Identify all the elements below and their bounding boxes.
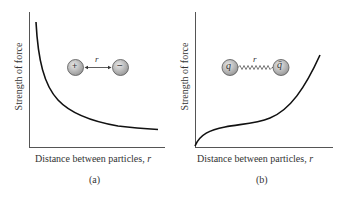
antiquark-label: q̄ <box>277 59 282 70</box>
separation-label-b: r <box>253 54 257 64</box>
negative-sign-label: − <box>117 60 123 71</box>
x-axis-label-a: Distance between particles, r <box>35 153 151 164</box>
x-axis-label-a-text: Distance between particles, <box>35 153 147 164</box>
x-axis-label-b: Distance between particles, r <box>197 153 313 164</box>
panel-a-curve <box>36 22 158 130</box>
x-axis-label-b-var: r <box>309 153 313 164</box>
y-axis-label-b: Strength of force <box>179 32 190 122</box>
spring-icon <box>238 66 273 70</box>
caption-b: (b) <box>256 174 268 185</box>
caption-a: (a) <box>89 174 100 185</box>
figure-canvas <box>0 0 341 197</box>
separation-label-a: r <box>95 54 99 64</box>
panel-b-axes <box>195 12 333 148</box>
x-axis-label-a-var: r <box>147 153 151 164</box>
x-axis-label-b-text: Distance between particles, <box>197 153 309 164</box>
positive-sign-label: + <box>72 61 77 71</box>
panel-a-axes <box>29 12 165 148</box>
quark-label: q <box>226 60 231 71</box>
y-axis-label-a: Strength of force <box>13 32 24 122</box>
